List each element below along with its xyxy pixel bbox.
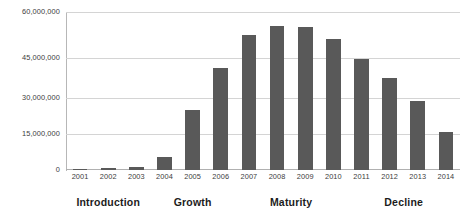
- bar-2004: [157, 12, 172, 170]
- bar-fill: [326, 39, 341, 170]
- x-axis-tick-label: 2004: [150, 172, 178, 182]
- bar-2003: [129, 12, 144, 170]
- stage-annotations: IntroductionGrowthMaturityDecline: [0, 196, 468, 216]
- bar-2012: [382, 12, 397, 170]
- x-axis-tick-label: 2012: [376, 172, 404, 182]
- x-axis-tick-label: 2009: [291, 172, 319, 182]
- y-axis-tick-label: 0: [0, 166, 60, 174]
- bar-fill: [242, 35, 257, 170]
- bar-fill: [382, 78, 397, 170]
- x-axis-tick-label: 2005: [179, 172, 207, 182]
- stage-label-maturity: Maturity: [231, 196, 351, 209]
- bar-2011: [354, 12, 369, 170]
- y-axis-tick-label: 30,000,000: [0, 94, 60, 102]
- x-axis-tick-label: 2007: [235, 172, 263, 182]
- x-axis-tick-label: 2010: [319, 172, 347, 182]
- bar-fill: [129, 167, 144, 170]
- x-axis-labels: 2001200220032004200520062007200820092010…: [66, 172, 460, 186]
- bar-2009: [298, 12, 313, 170]
- x-axis-tick-label: 2001: [66, 172, 94, 182]
- y-axis-tick-label: 15,000,000: [0, 130, 60, 138]
- bar-2006: [213, 12, 228, 170]
- bar-fill: [270, 26, 285, 170]
- x-axis-tick-label: 2011: [347, 172, 375, 182]
- x-axis-tick-label: 2013: [404, 172, 432, 182]
- bar-2014: [439, 12, 454, 170]
- product-life-cycle-bar-chart: 60,000,000 45,000,000 30,000,000 15,000,…: [0, 0, 468, 222]
- bar-2005: [185, 12, 200, 170]
- bar-fill: [354, 59, 369, 170]
- bar-fill: [157, 157, 172, 170]
- stage-label-decline: Decline: [344, 196, 464, 209]
- bar-fill: [410, 101, 425, 170]
- bar-fill: [73, 169, 88, 170]
- x-axis-tick-label: 2006: [207, 172, 235, 182]
- x-axis-tick-label: 2002: [94, 172, 122, 182]
- bar-2001: [73, 12, 88, 170]
- bar-fill: [439, 132, 454, 170]
- x-axis-tick-label: 2014: [432, 172, 460, 182]
- bar-2013: [410, 12, 425, 170]
- bar-fill: [213, 68, 228, 170]
- y-axis-tick-label: 45,000,000: [0, 54, 60, 62]
- bar-2002: [101, 12, 116, 170]
- bar-2010: [326, 12, 341, 170]
- bar-2008: [270, 12, 285, 170]
- bar-series: [66, 12, 460, 170]
- x-axis-tick-label: 2008: [263, 172, 291, 182]
- y-axis-tick-label: 60,000,000: [0, 8, 60, 16]
- y-axis-labels: 60,000,000 45,000,000 30,000,000 15,000,…: [0, 0, 60, 222]
- plot-area: [66, 12, 460, 170]
- x-axis-tick-label: 2003: [122, 172, 150, 182]
- bar-fill: [298, 27, 313, 170]
- bar-2007: [242, 12, 257, 170]
- bar-fill: [101, 168, 116, 170]
- bar-fill: [185, 110, 200, 170]
